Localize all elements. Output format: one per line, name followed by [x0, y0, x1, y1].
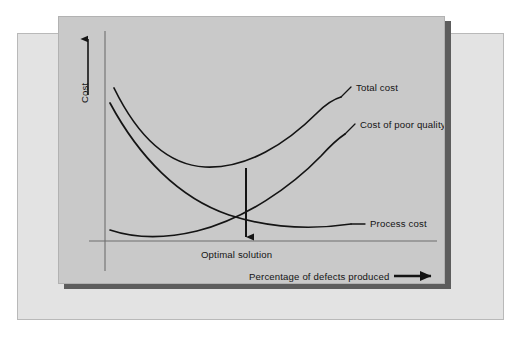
- label-optimal-solution: Optimal solution: [201, 249, 272, 260]
- leader-total-cost: [341, 87, 351, 97]
- label-process-cost: Process cost: [370, 218, 427, 229]
- label-cost-of-poor-quality: Cost of poor quality: [360, 119, 445, 130]
- inner-panel: Cost Total cost Cost of poor quality Pro…: [58, 16, 445, 284]
- curve-cost-of-poor-quality: [110, 134, 345, 237]
- x-axis-label: Percentage of defects produced: [249, 271, 390, 282]
- y-axis-label: Cost: [79, 82, 90, 103]
- curve-total-cost: [114, 88, 341, 167]
- figure-root: Cost Total cost Cost of poor quality Pro…: [0, 0, 521, 337]
- leader-cost-of-poor-quality: [345, 124, 355, 134]
- label-total-cost: Total cost: [356, 82, 398, 93]
- cost-of-quality-chart: Cost Total cost Cost of poor quality Pro…: [59, 17, 445, 284]
